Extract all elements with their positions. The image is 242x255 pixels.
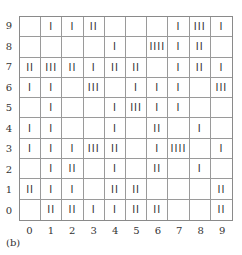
y-axis-label: 8 — [3, 41, 15, 52]
grid-cell — [126, 139, 147, 159]
grid-cell: I — [20, 118, 41, 138]
grid-cell: III — [41, 58, 62, 78]
grid-cell: II — [126, 179, 147, 199]
grid-cell — [190, 139, 211, 159]
grid-cell — [20, 17, 41, 37]
grid-cell: I — [126, 78, 147, 98]
grid-cell — [168, 118, 189, 138]
grid-cell — [84, 37, 105, 57]
x-axis-label: 5 — [126, 225, 147, 236]
grid-cell — [62, 78, 83, 98]
grid-cell — [126, 37, 147, 57]
grid-cell: I — [41, 159, 62, 179]
grid-cell: II — [105, 139, 126, 159]
grid-cell: I — [41, 17, 62, 37]
grid-cell — [211, 118, 232, 138]
grid-cell: I — [62, 179, 83, 199]
grid-cell: I — [211, 139, 232, 159]
grid-cell — [126, 159, 147, 179]
grid-cell: II — [20, 179, 41, 199]
grid-cell: I — [84, 200, 105, 220]
x-axis-label: 1 — [40, 225, 61, 236]
y-axis-label: 1 — [3, 184, 15, 195]
y-axis-label: 6 — [3, 82, 15, 93]
grid-cell: I — [41, 78, 62, 98]
grid-cell: II — [190, 58, 211, 78]
grid-cell: I — [168, 37, 189, 57]
grid-cell — [62, 98, 83, 118]
grid-cell: I — [41, 179, 62, 199]
grid-cell: II — [105, 58, 126, 78]
grid-cell: III — [211, 78, 232, 98]
grid-cell — [211, 37, 232, 57]
grid-cell: I — [211, 58, 232, 78]
grid-cell: II — [105, 179, 126, 199]
grid-cell: IIII — [168, 139, 189, 159]
grid-cell: I — [20, 78, 41, 98]
grid-cell — [126, 17, 147, 37]
grid-cell: I — [190, 159, 211, 179]
grid-cell: I — [62, 17, 83, 37]
grid-cell: II — [126, 200, 147, 220]
grid-cell: I — [190, 118, 211, 138]
tally-grid: IIIIIIIIIIIIIIIIIIIIIIIIIIIIIIIIIIIIIIII… — [19, 16, 233, 221]
grid-cell: I — [168, 98, 189, 118]
grid-cell: II — [62, 159, 83, 179]
grid-cell: I — [62, 139, 83, 159]
grid-cell: IIII — [147, 37, 168, 57]
grid-cell: I — [105, 37, 126, 57]
x-axis-label: 7 — [169, 225, 190, 236]
y-axis-label: 9 — [3, 20, 15, 31]
grid-cell: I — [41, 139, 62, 159]
grid-cell: II — [62, 200, 83, 220]
grid-cell — [211, 98, 232, 118]
grid-cell: I — [168, 78, 189, 98]
grid-cell — [105, 17, 126, 37]
grid-cell: III — [84, 78, 105, 98]
x-axis-label: 9 — [212, 225, 233, 236]
x-axis-label: 8 — [190, 225, 211, 236]
grid-cell: I — [105, 118, 126, 138]
grid-cell — [84, 179, 105, 199]
grid-cell: II — [147, 159, 168, 179]
grid-cell: III — [84, 139, 105, 159]
grid-cell: I — [211, 17, 232, 37]
grid-cell: II — [62, 58, 83, 78]
grid-cell — [190, 179, 211, 199]
x-axis-label: 3 — [83, 225, 104, 236]
grid-cell — [211, 159, 232, 179]
grid-cell — [190, 78, 211, 98]
y-axis-label: 7 — [3, 61, 15, 72]
grid-cell: I — [105, 98, 126, 118]
grid-cell: I — [168, 17, 189, 37]
grid-cell: II — [41, 200, 62, 220]
grid-cell — [84, 159, 105, 179]
grid-cell — [20, 98, 41, 118]
grid-cell — [105, 78, 126, 98]
grid-cell: II — [126, 58, 147, 78]
grid-cell: I — [147, 139, 168, 159]
figure-caption: (b) — [6, 237, 20, 248]
grid-cell: I — [147, 78, 168, 98]
grid-cell — [62, 118, 83, 138]
grid-cell: III — [190, 17, 211, 37]
grid-cell — [20, 200, 41, 220]
grid-cell — [190, 200, 211, 220]
grid-cell: I — [41, 118, 62, 138]
grid-cell: III — [126, 98, 147, 118]
x-axis-label: 2 — [62, 225, 83, 236]
y-axis-label: 2 — [3, 164, 15, 175]
grid-cell — [147, 58, 168, 78]
x-axis-label: 4 — [105, 225, 126, 236]
grid-cell — [147, 179, 168, 199]
grid-cell — [20, 159, 41, 179]
grid-cell: I — [41, 98, 62, 118]
grid-cell: I — [168, 58, 189, 78]
grid-cell: I — [84, 58, 105, 78]
grid-cell: II — [190, 37, 211, 57]
grid-cell: II — [147, 200, 168, 220]
x-axis-label: 0 — [19, 225, 40, 236]
grid-cell: II — [84, 17, 105, 37]
grid-cell — [20, 37, 41, 57]
grid-cell — [168, 200, 189, 220]
